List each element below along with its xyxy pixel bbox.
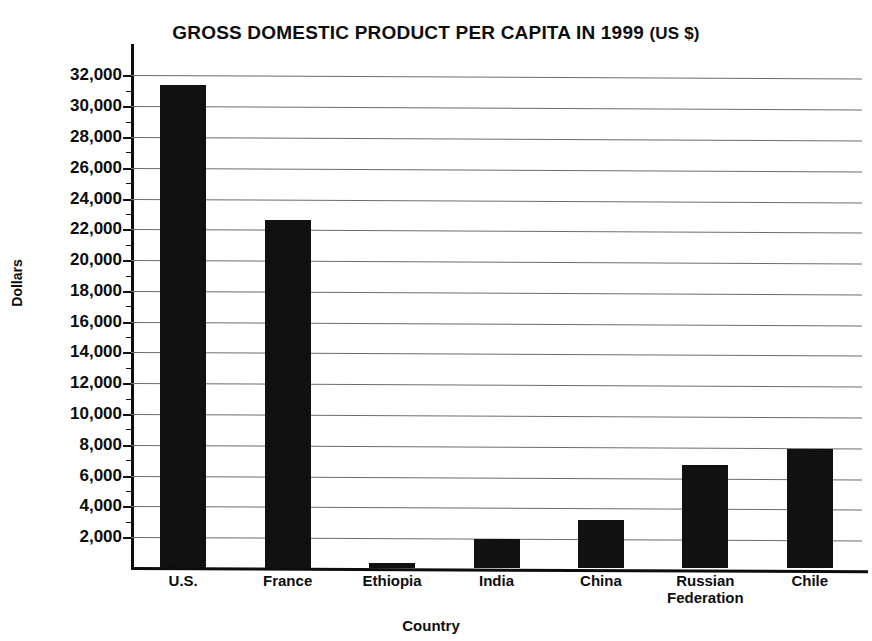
bar (265, 220, 311, 568)
y-axis-tick-label: 18,000 (2, 281, 122, 301)
y-axis-tick-label: 8,000 (2, 435, 122, 455)
y-axis-tick-label: 6,000 (2, 466, 122, 486)
gridline (131, 383, 862, 388)
y-axis-tick-label: 14,000 (2, 342, 122, 362)
y-axis-tick-label: 26,000 (2, 158, 122, 178)
y-axis-tick-label: 32,000 (2, 65, 122, 85)
y-axis-tick-labels: 2,0004,0006,0008,00010,00012,00014,00016… (0, 60, 122, 568)
y-axis-tick-label: 2,000 (2, 527, 122, 547)
y-axis-tick-label: 4,000 (2, 496, 122, 516)
y-axis-tick-minor (126, 91, 131, 92)
y-axis-tick-minor (126, 491, 131, 492)
y-axis-tick (123, 414, 131, 416)
gridline (131, 106, 862, 111)
y-axis-tick-minor (126, 460, 131, 461)
y-axis-tick (123, 260, 131, 262)
gridline (131, 445, 862, 450)
chart-title-suffix: (US $) (649, 24, 699, 43)
gridline (131, 352, 862, 357)
y-axis-tick-minor (126, 245, 131, 246)
bar (474, 539, 520, 568)
y-axis-tick (123, 199, 131, 201)
y-axis-tick-label: 12,000 (2, 373, 122, 393)
y-axis-tick-minor (126, 306, 131, 307)
y-axis-tick-minor (126, 214, 131, 215)
bar (787, 449, 833, 568)
y-axis-tick (123, 445, 131, 447)
bar (578, 520, 624, 568)
y-axis-tick (123, 106, 131, 108)
y-axis-tick (123, 352, 131, 354)
y-axis-tick-minor (126, 368, 131, 369)
gridline (131, 291, 862, 296)
y-axis-tick-minor (126, 429, 131, 430)
gridline (131, 260, 862, 265)
y-axis-tick (123, 137, 131, 139)
x-axis-tick-label: Chile (745, 572, 872, 589)
y-axis-tick-label: 20,000 (2, 250, 122, 270)
y-axis-tick-label: 28,000 (2, 127, 122, 147)
plot-area (131, 60, 862, 568)
y-axis-tick (123, 476, 131, 478)
x-axis-tick-labels: U.S.FranceEthiopiaIndiaChinaRussianFeder… (131, 572, 868, 618)
gridline (131, 229, 862, 234)
y-axis-tick-minor (126, 337, 131, 338)
y-axis-tick-label: 30,000 (2, 96, 122, 116)
y-axis-tick (123, 229, 131, 231)
y-axis-tick-minor (126, 522, 131, 523)
bar (682, 465, 728, 568)
y-axis-tick (123, 75, 131, 77)
gridline (131, 476, 862, 481)
y-axis-tick (123, 322, 131, 324)
gridline (131, 168, 862, 173)
gridline (131, 137, 862, 142)
y-axis-tick-label: 24,000 (2, 189, 122, 209)
y-axis-tick-minor (126, 183, 131, 184)
y-axis-tick-minor (126, 276, 131, 277)
gridline (131, 199, 862, 204)
y-axis-tick (123, 506, 131, 508)
y-axis-tick (123, 383, 131, 385)
y-axis-tick-minor (126, 399, 131, 400)
y-axis-tick (123, 168, 131, 170)
y-axis-tick-label: 16,000 (2, 312, 122, 332)
y-axis-tick-label: 10,000 (2, 404, 122, 424)
y-axis-tick (123, 291, 131, 293)
chart-title-main: GROSS DOMESTIC PRODUCT PER CAPITA IN 199… (172, 22, 644, 43)
y-axis-tick (123, 537, 131, 539)
gridline (131, 75, 862, 80)
y-axis-tick-label: 22,000 (2, 219, 122, 239)
gridline (131, 322, 862, 327)
chart-title: GROSS DOMESTIC PRODUCT PER CAPITA IN 199… (0, 22, 872, 44)
y-axis-tick-minor (126, 152, 131, 153)
x-axis-title: Country (131, 617, 731, 634)
gridline (131, 506, 862, 511)
gridline (131, 414, 862, 419)
x-axis-tick-label-line: Chile (745, 572, 872, 589)
x-axis-tick-label-line: Federation (640, 589, 770, 606)
bar (160, 85, 206, 568)
bar-chart: GROSS DOMESTIC PRODUCT PER CAPITA IN 199… (0, 0, 872, 641)
y-axis-tick-minor (126, 122, 131, 123)
